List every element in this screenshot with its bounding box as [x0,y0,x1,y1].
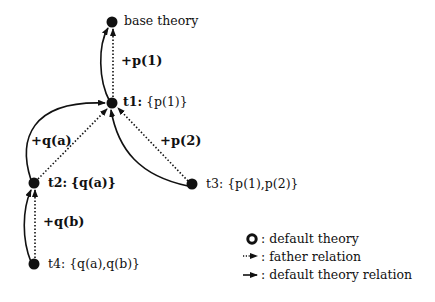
node-label-t2: t2: {q(a)} [48,177,116,190]
node-name-t1: t1: [123,94,142,109]
default-edge-t1-base [101,28,110,102]
legend-label-default-theory-relation: : default theory relation [261,269,412,282]
node-set-t3: {p(1),p(2)} [227,176,298,191]
edge-label-t2-t1: +q(a) [31,134,72,147]
edge-label-t4-t2: +q(b) [43,215,84,228]
node-name-t2: t2: [48,175,67,190]
node-name-t4: t4: [48,256,65,271]
node-set-t2: {q(a)} [71,175,116,190]
node-label-t4: t4: {q(a),q(b)} [48,258,140,271]
node-label-t3: t3: {p(1),p(2)} [206,178,298,191]
node-name-t3: t3: [206,176,223,191]
legend-label-default-theory: : default theory [261,233,359,246]
default-edge-t3-t1 [111,110,188,186]
legend-label-father-relation: : father relation [261,251,361,264]
node-base-theory [107,17,118,28]
theory-diagram: base theory t1: {p(1)} t2: {q(a)} t3: {p… [0,0,435,302]
node-t4 [29,259,40,270]
edge-label-t3-t1: +p(2) [160,134,201,147]
node-label-base-theory: base theory [124,15,198,28]
node-t2 [29,178,40,189]
node-set-t4: {q(a),q(b)} [69,256,140,271]
node-t3 [187,179,198,190]
node-label-t1: t1: {p(1)} [123,96,188,109]
edge-label-t1-base: +p(1) [121,54,162,67]
filled-circle-icon [248,235,256,243]
legend-icons [243,235,257,275]
node-set-t1: {p(1)} [146,94,188,109]
default-edge-t4-t2 [24,190,31,262]
node-t1 [107,98,118,109]
